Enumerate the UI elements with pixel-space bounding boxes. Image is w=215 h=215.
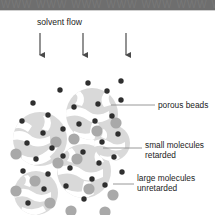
small-molecule [85,80,90,85]
small-molecule [92,118,97,123]
small-molecule [80,149,85,154]
label-solvent-flow: solvent flow [37,18,82,28]
small-molecule [60,153,65,158]
large-molecule [44,197,55,208]
small-molecule [57,87,62,92]
top-banner-strip: WWW WWW WWW WWW WWW WWW WWW [0,0,215,11]
label-porous-beads: porous beads [158,101,208,111]
label-small-molecules: small molecules retarded [145,141,204,160]
small-molecule [24,140,29,145]
small-molecule [20,168,25,173]
small-molecule [102,182,107,187]
large-molecule [29,175,40,186]
small-molecule [67,165,72,170]
small-molecule [118,97,123,102]
small-molecule [45,171,50,176]
small-molecule [115,131,120,136]
large-molecule [99,206,110,215]
label-small-molecules-line2: retarded [145,151,204,161]
small-molecule [99,139,104,144]
small-molecule [95,101,100,106]
small-molecule [19,118,24,123]
small-molecule [30,100,35,105]
small-molecule [109,113,114,118]
large-molecule [110,117,121,128]
small-molecule [118,78,123,83]
label-large-molecules: large molecules unretarded [137,174,195,193]
solvent-flow-arrows [40,33,126,55]
large-molecule [107,189,118,200]
banner-watermark-text: WWW WWW WWW WWW WWW WWW WWW [1,0,215,10]
small-molecule [33,156,38,161]
large-molecule [10,148,21,159]
large-molecule [83,183,94,194]
small-molecule [45,112,50,117]
small-molecule [76,121,81,126]
small-molecule [119,169,124,174]
label-large-molecules-line2: unretarded [137,184,195,194]
small-molecule [49,145,54,150]
label-large-molecules-line1: large molecules [137,173,195,183]
small-molecule [41,186,46,191]
small-molecule [104,88,109,93]
small-molecule [89,176,94,181]
large-molecule [10,185,21,196]
small-molecule [40,130,45,135]
large-molecule [65,205,76,215]
large-molecule [52,157,63,168]
large-molecule [91,125,102,136]
large-molecule [68,133,79,144]
small-molecule [25,200,30,205]
small-molecule [111,154,116,159]
small-molecule [71,104,76,109]
figure-root: WWW WWW WWW WWW WWW WWW WWW [0,0,215,215]
large-molecule [71,153,82,164]
small-molecule [96,160,101,165]
label-small-molecules-line1: small molecules [145,140,204,150]
small-molecule [60,126,65,131]
small-molecule [63,183,68,188]
small-molecule [81,196,86,201]
